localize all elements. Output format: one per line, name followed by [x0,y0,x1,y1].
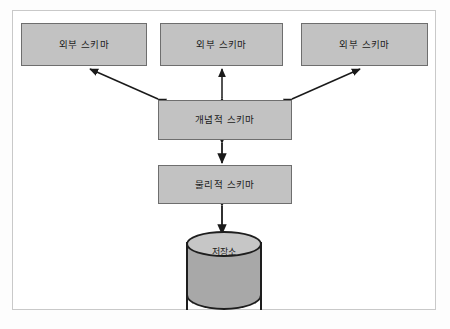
node-conceptual-schema[interactable]: 개념적 스키마 [158,100,292,140]
node-label: 외부 스키마 [339,39,389,50]
node-storage-cylinder[interactable]: 저장소 [186,231,262,310]
node-label: 물리적 스키마 [195,179,255,190]
diagram-canvas: 외부 스키마 외부 스키마 외부 스키마 개념적 스키마 물리적 스키마 저장소 [0,0,450,329]
node-external-schema-2[interactable]: 외부 스키마 [160,23,283,66]
node-external-schema-3[interactable]: 외부 스키마 [301,23,428,66]
node-label: 개념적 스키마 [195,114,255,125]
node-label: 외부 스키마 [196,39,246,50]
node-label: 외부 스키마 [59,39,109,50]
node-label: 저장소 [186,245,262,258]
node-external-schema-1[interactable]: 외부 스키마 [21,23,147,66]
node-physical-schema[interactable]: 물리적 스키마 [158,165,292,204]
